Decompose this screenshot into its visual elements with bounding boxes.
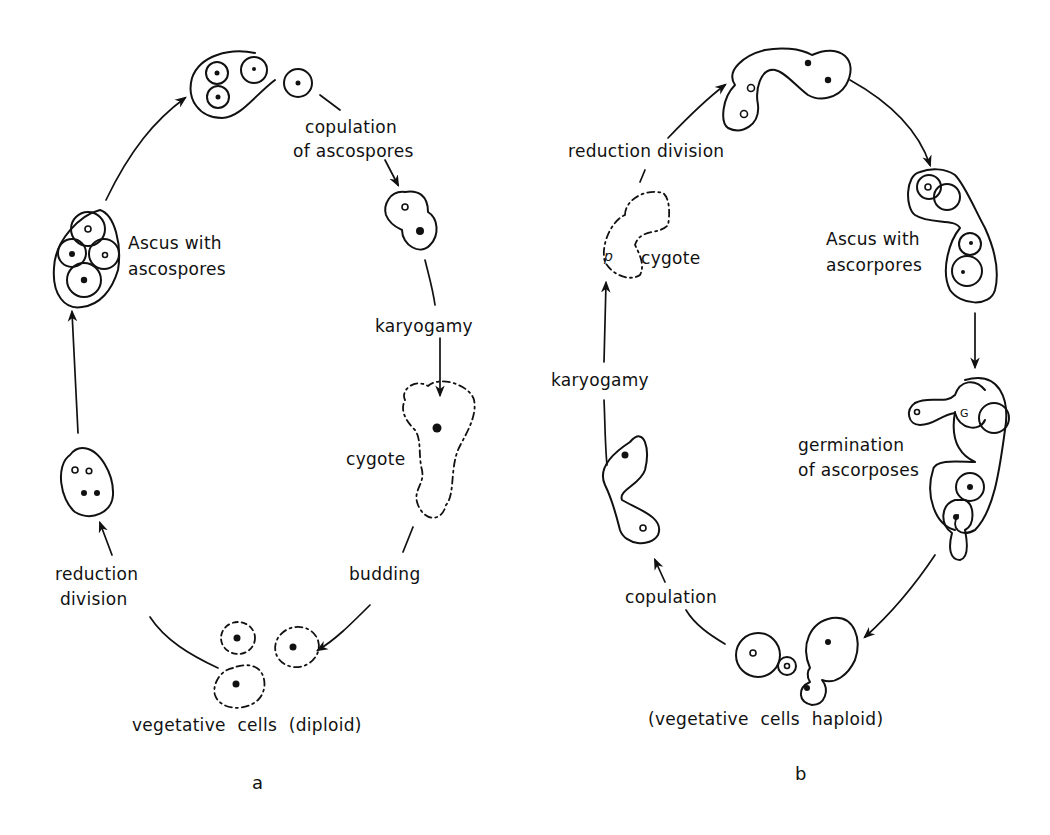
label-karyogamy-b: karyogamy: [551, 367, 649, 393]
arrow-to-copulation-cells: [655, 560, 665, 582]
arrow-to-cygote-b: [604, 283, 606, 362]
cygote-a: [403, 381, 475, 517]
label-budding: budding: [349, 561, 421, 587]
svg-text:G: G: [960, 407, 969, 420]
label-cygote-a: cygote: [346, 446, 406, 472]
label-vegetative-haploid: (vegetative cells haploid): [648, 706, 883, 732]
label-cygote-b: cygote: [641, 245, 701, 271]
label-vegetative-diploid: vegetative cells (diploid): [132, 712, 362, 738]
arrow-to-zygote-top: [668, 85, 725, 138]
arrow-ascus-to-release: [106, 98, 185, 200]
ascus-with-ascospores-a: [54, 210, 119, 307]
label-ascus-b-line1: Ascus with: [826, 226, 920, 252]
label-reduction-a-line1: reduction: [55, 561, 138, 587]
label-reduction-b: reduction division: [568, 138, 724, 164]
label-karyogamy-a: karyogamy: [375, 313, 473, 339]
panel-letter-a: a: [252, 772, 263, 793]
ascus-with-ascorpores: [908, 169, 997, 302]
dividing-zygote-b: [723, 48, 850, 130]
label-ascus-a-line2: ascospores: [128, 256, 226, 282]
vegetative-cells-haploid: [736, 618, 858, 705]
ascus-releasing-spores: [191, 51, 312, 118]
label-copulation-b: copulation: [625, 584, 717, 610]
arrow-to-ascus-b: [850, 80, 930, 165]
svg-text:p: p: [603, 248, 613, 264]
label-ascus-b-line2: ascorpores: [826, 252, 922, 278]
arrow-to-meiosis: [100, 523, 112, 555]
life-cycle-diagram: G p: [0, 0, 1050, 835]
arrow-to-vegetative-b: [865, 555, 935, 637]
vegetative-cells-diploid: [214, 622, 323, 708]
arrow-to-vegetative: [318, 605, 370, 650]
germinating-ascorposes: G: [909, 378, 1009, 560]
label-germination-line1: germination: [798, 432, 904, 458]
copulating-ascospores: [385, 192, 436, 250]
arrow-to-ascus: [72, 312, 78, 433]
meiosis-cell: [61, 448, 113, 516]
label-ascus-a-line1: Ascus with: [128, 230, 222, 256]
label-reduction-a-line2: division: [60, 586, 127, 612]
label-copulation-a-line1: copulation: [305, 114, 397, 140]
copulating-cells-b: [603, 436, 659, 543]
label-germination-line2: of ascorposes: [798, 457, 919, 483]
label-copulation-a-line2: of ascospores: [293, 138, 414, 164]
panel-letter-b: b: [795, 763, 806, 784]
